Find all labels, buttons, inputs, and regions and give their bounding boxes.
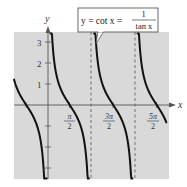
svg-text:2: 2 [107,122,111,131]
y-tick-label-2: 2 [37,59,42,69]
callout-fraction-den: tan x [136,21,154,31]
x-axis-label: x [177,99,183,110]
x-axis-arrow-icon [169,103,176,108]
y-axis-arrow-icon [46,26,51,33]
svg-text:2: 2 [151,122,155,131]
svg-text:5π: 5π [149,112,158,121]
y-tick-label-1: 1 [37,80,42,90]
plot-background [14,32,169,179]
svg-text:3π: 3π [104,112,114,121]
callout-fraction-num: 1 [141,9,145,19]
cotangent-graph: x y 3 2 1 π 2 3π 2 5π 2 y = c [0,0,187,187]
svg-text:2: 2 [68,122,72,131]
y-axis-label: y [44,13,50,24]
y-tick-label-3: 3 [37,38,42,48]
callout-text: y = cot x = [81,16,122,26]
